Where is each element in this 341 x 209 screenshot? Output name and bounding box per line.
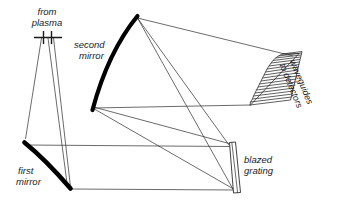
waveguide-bar [250,100,291,105]
label-second-mirror-line2: mirror [79,50,105,61]
optics-schematic-svg: from plasma second mirror first mirror b… [0,0,341,209]
label-blazed-grating-line1: blazed [244,154,273,165]
ray-second-mirror-top-to-grating [138,18,235,191]
label-from-plasma-line2: plasma [31,17,63,28]
entrance-slit-assembly [34,31,62,44]
waveguide-bar [254,91,294,96]
label-first-mirror-line2: mirror [16,176,42,187]
label-first-mirror-line1: first [18,165,34,176]
ray-first-mirror-upper-to-grating [26,145,231,147]
second-mirror-surface [93,16,138,110]
label-second-mirror: second mirror [74,39,105,61]
label-first-mirror: first mirror [16,165,42,187]
ray-slit-to-first-mirror-left [26,38,42,139]
ray-group-grating-to-second-mirror [94,107,238,191]
label-from-plasma: from plasma [31,6,63,28]
ray-group-first-mirror-to-grating [26,145,238,190]
ray-slit-to-first-mirror-right [54,38,71,187]
ray-group-second-mirror-to-waveguide-base [94,105,251,108]
ray-second-mirror-bottom-to-waveguide-array [94,105,251,108]
ray-grating-top-to-second-mirror-bottom [94,107,232,144]
waveguide-bar [251,97,292,102]
ray-first-mirror-lower-to-grating [71,189,238,190]
label-second-mirror-line1: second [74,39,105,50]
spectrometer-diagram: from plasma second mirror first mirror b… [0,0,341,209]
label-waveguides: waveguides to detectors [278,58,315,110]
label-from-plasma-line1: from [38,6,57,17]
label-blazed-grating-line2: grating [244,165,274,176]
label-blazed-grating: blazed grating [244,154,274,176]
ray-grating-bottom-to-second-mirror-bottom [94,109,238,192]
